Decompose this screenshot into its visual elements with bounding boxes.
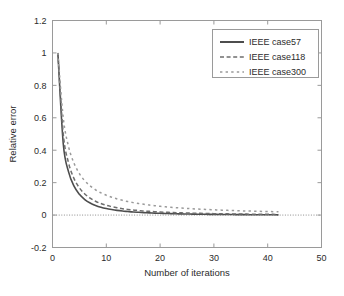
relative-error-convergence-chart: 01020304050 -0.200.20.40.60.811.2 Number… bbox=[0, 0, 344, 296]
x-tick-label: 40 bbox=[263, 253, 273, 263]
chart-legend[interactable]: IEEE case57IEEE case118IEEE case300 bbox=[213, 30, 319, 78]
x-tick-label: 50 bbox=[316, 253, 326, 263]
x-tick-label: 10 bbox=[101, 253, 111, 263]
y-tick-label: 0.4 bbox=[34, 146, 47, 156]
x-axis-title: Number of iterations bbox=[144, 267, 230, 278]
x-tick-label: 30 bbox=[209, 253, 219, 263]
y-tick-label: 0 bbox=[41, 210, 46, 220]
y-tick-label: 1.2 bbox=[34, 16, 47, 26]
x-tick-label: 0 bbox=[50, 253, 55, 263]
y-tick-label: 1 bbox=[41, 48, 46, 58]
y-tick-label: -0.2 bbox=[31, 243, 47, 253]
legend-label-ieee-case57: IEEE case57 bbox=[249, 37, 301, 47]
y-tick-label: 0.6 bbox=[34, 113, 47, 123]
legend-label-ieee-case300: IEEE case300 bbox=[249, 67, 306, 77]
y-tick-label: 0.2 bbox=[34, 178, 47, 188]
legend-label-ieee-case118: IEEE case118 bbox=[249, 52, 305, 62]
y-axis-title: Relative error bbox=[7, 105, 18, 162]
chart-page: 01020304050 -0.200.20.40.60.811.2 Number… bbox=[0, 0, 344, 296]
y-tick-label: 0.8 bbox=[34, 81, 47, 91]
x-tick-label: 20 bbox=[155, 253, 165, 263]
